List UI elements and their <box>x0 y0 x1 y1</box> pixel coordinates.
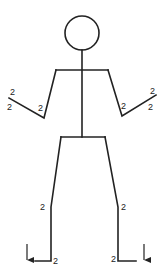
head <box>65 16 99 50</box>
label-left-elbow: 2 <box>38 103 43 113</box>
label-left-hand-lower: 2 <box>7 102 12 112</box>
label-left-ankle: 2 <box>53 256 58 266</box>
right-leg <box>105 137 136 261</box>
stick-figure-diagram: 2 2 2 2 2 2 2 2 2 2 <box>0 0 165 273</box>
label-right-hand-upper: 2 <box>150 86 155 96</box>
label-left-knee: 2 <box>40 202 45 212</box>
label-left-hand-upper: 2 <box>10 87 15 97</box>
left-leg <box>35 137 61 261</box>
label-right-hand-lower: 2 <box>148 102 153 112</box>
label-right-elbow: 2 <box>121 101 126 111</box>
label-right-knee: 2 <box>121 202 126 212</box>
label-right-ankle: 2 <box>111 254 116 264</box>
left-arm <box>9 70 56 118</box>
